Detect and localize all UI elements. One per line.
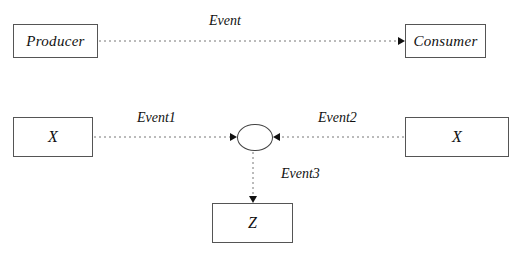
node-z-label: Z	[248, 215, 257, 231]
node-producer-label: Producer	[26, 34, 85, 49]
node-consumer[interactable]: Consumer	[405, 24, 486, 58]
node-z[interactable]: Z	[212, 203, 293, 243]
node-producer[interactable]: Producer	[13, 24, 98, 58]
arrowhead-down-icon	[249, 196, 257, 203]
node-x-left-label: X	[48, 129, 58, 145]
node-x-right[interactable]: X	[405, 117, 509, 157]
diagram-canvas: Producer Consumer X X Z Event Event1 Eve…	[0, 0, 529, 261]
node-x-left[interactable]: X	[13, 117, 93, 157]
edge-label-event: Event	[209, 14, 241, 28]
node-x-right-label: X	[452, 129, 462, 145]
edge-label-event3: Event3	[281, 167, 320, 181]
edge-event	[99, 37, 405, 45]
edge-label-event2: Event2	[318, 111, 357, 125]
arrowhead-right-icon	[398, 37, 405, 45]
edge-event3	[249, 152, 257, 203]
edge-label-event1: Event1	[137, 111, 176, 125]
node-junction[interactable]	[237, 124, 273, 151]
arrowhead-right-icon	[230, 133, 237, 141]
arrowhead-left-icon	[273, 133, 280, 141]
node-consumer-label: Consumer	[413, 34, 477, 49]
edge-event2	[273, 133, 404, 141]
edge-event1	[94, 133, 237, 141]
